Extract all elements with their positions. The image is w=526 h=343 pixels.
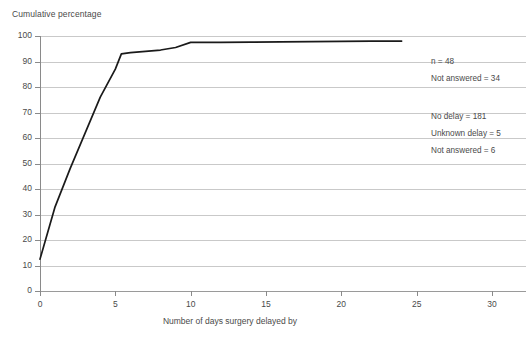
x-tick-label: 20 [321,299,361,309]
x-tick-label: 15 [246,299,286,309]
y-tick-label: 50 [2,158,32,168]
annotation-text: n = 48 [431,57,454,66]
x-tick-mark [115,291,116,296]
x-tick-mark [191,291,192,296]
y-tick-mark [35,189,40,190]
y-tick-mark [35,138,40,139]
y-tick-mark [35,113,40,114]
gridline [40,215,526,216]
gridline [40,87,526,88]
x-tick-mark [417,291,418,296]
y-tick-label: 40 [2,183,32,193]
y-tick-mark [35,266,40,267]
x-tick-mark [40,291,41,296]
annotation-text: No delay = 181 [431,112,486,121]
y-tick-label: 10 [2,260,32,270]
y-tick-label: 60 [2,132,32,142]
x-tick-mark [492,291,493,296]
y-tick-label: 20 [2,234,32,244]
annotation-text: Not answered = 34 [431,74,500,83]
x-tick-label: 30 [472,299,512,309]
gridline [40,164,526,165]
y-tick-mark [35,87,40,88]
gridline [40,291,526,292]
y-tick-mark [35,62,40,63]
gridline [40,189,526,190]
y-tick-label: 90 [2,56,32,66]
y-tick-mark [35,164,40,165]
y-tick-mark [35,36,40,37]
annotation-text: Not answered = 6 [431,146,495,155]
y-tick-label: 0 [2,285,32,295]
y-axis-title: Cumulative percentage [12,9,102,19]
y-tick-label: 100 [2,30,32,40]
x-tick-mark [266,291,267,296]
x-tick-label: 10 [171,299,211,309]
y-tick-label: 70 [2,107,32,117]
y-tick-label: 30 [2,209,32,219]
x-tick-label: 5 [95,299,135,309]
gridline [40,36,526,37]
gridline [40,138,526,139]
y-tick-mark [35,240,40,241]
x-tick-label: 25 [397,299,437,309]
x-axis-title: Number of days surgery delayed by [0,316,460,326]
annotation-text: Unknown delay = 5 [431,129,501,138]
gridline [40,266,526,267]
x-tick-mark [341,291,342,296]
x-tick-label: 0 [20,299,60,309]
cumulative-percentage-chart: Cumulative percentage 010203040506070809… [0,0,526,343]
y-tick-mark [35,215,40,216]
gridline [40,240,526,241]
y-axis-line [40,36,41,292]
y-tick-label: 80 [2,81,32,91]
